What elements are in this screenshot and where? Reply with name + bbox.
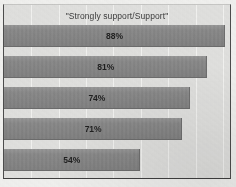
chart-frame: "Strongly support/Support" 88%81%74%71%5… [3, 4, 231, 179]
bar-row: 71% [4, 118, 231, 140]
bar-row: 74% [4, 87, 231, 109]
bar-value-label: 54% [55, 149, 89, 171]
bar-value-label: 88% [98, 25, 132, 47]
bar-row: 81% [4, 56, 231, 78]
bar-row: 54% [4, 149, 231, 171]
bar-value-label: 74% [80, 87, 114, 109]
bars-area: 88%81%74%71%54% [4, 25, 231, 179]
bar-value-label: 81% [89, 56, 123, 78]
bar-value-label: 71% [76, 118, 110, 140]
scanned-page: "Strongly support/Support" 88%81%74%71%5… [0, 0, 236, 187]
bar-row: 88% [4, 25, 231, 47]
chart-title: "Strongly support/Support" [4, 11, 230, 23]
